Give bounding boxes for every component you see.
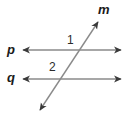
angle-label-2: 2 [49, 61, 56, 73]
geometry-canvas [0, 0, 128, 120]
line-label-m: m [98, 3, 110, 16]
geometry-figure: p q m 1 2 [0, 0, 128, 120]
angle-label-1: 1 [67, 34, 74, 46]
line-label-p: p [7, 43, 15, 56]
line-label-q: q [7, 71, 15, 84]
